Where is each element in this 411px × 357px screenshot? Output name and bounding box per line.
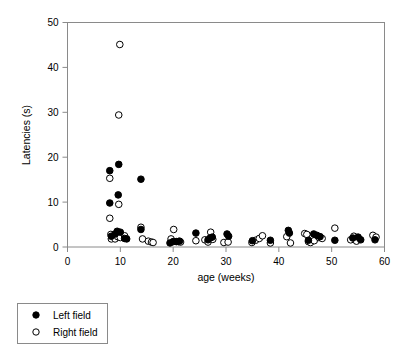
data-point-right-field — [106, 215, 113, 222]
y-axis-title: Latencies (s) — [20, 105, 32, 165]
data-point-left-field — [357, 237, 364, 244]
data-point-left-field — [249, 237, 256, 244]
data-point-left-field — [138, 226, 145, 233]
y-tick-label: 50 — [47, 17, 59, 28]
data-point-left-field — [193, 230, 200, 237]
data-point-left-field — [176, 238, 183, 245]
x-tick-label: 0 — [65, 256, 71, 267]
y-tick-label: 40 — [47, 62, 59, 73]
data-point-right-field — [170, 226, 177, 233]
data-point-left-field — [267, 237, 274, 244]
legend: Left field Right field — [18, 304, 108, 344]
data-point-left-field — [332, 237, 339, 244]
data-point-left-field — [209, 234, 216, 241]
data-point-left-field — [123, 236, 130, 243]
y-tick-label: 10 — [47, 197, 59, 208]
x-tick-label: 20 — [168, 256, 180, 267]
y-tick-label: 30 — [47, 107, 59, 118]
data-point-right-field — [193, 237, 200, 244]
data-point-left-field — [115, 192, 122, 199]
data-point-left-field — [117, 229, 124, 236]
data-point-right-field — [115, 112, 122, 119]
plot-frame — [68, 23, 385, 248]
plot-canvas: 0102030405060 01020304050 age (weeks) La… — [0, 0, 411, 357]
data-point-left-field — [372, 237, 379, 244]
data-point-right-field — [115, 201, 122, 208]
x-tick-label: 50 — [326, 256, 338, 267]
x-tick-label: 60 — [379, 256, 391, 267]
data-point-right-field — [117, 41, 124, 48]
y-tick-label: 20 — [47, 152, 59, 163]
data-point-right-field — [332, 225, 339, 232]
data-point-right-field — [259, 232, 266, 239]
scatter-plot-figure: 0102030405060 01020304050 age (weeks) La… — [0, 0, 411, 357]
y-axis-ticks — [63, 23, 68, 248]
x-axis-tick-labels: 0102030405060 — [65, 256, 391, 267]
legend-label-left-field: Left field — [53, 310, 91, 321]
data-point-left-field — [225, 233, 232, 240]
data-point-left-field — [305, 237, 312, 244]
y-axis-tick-labels: 01020304050 — [47, 17, 59, 253]
data-point-left-field — [106, 200, 113, 207]
data-point-right-field — [287, 240, 294, 247]
series-left-field-points — [106, 161, 378, 246]
legend-label-right-field: Right field — [53, 327, 97, 338]
legend-marker-right-field — [33, 329, 39, 335]
x-tick-label: 40 — [273, 256, 285, 267]
data-point-left-field — [317, 233, 324, 240]
y-tick-label: 0 — [53, 242, 59, 253]
data-point-right-field — [106, 175, 113, 182]
x-tick-label: 30 — [220, 256, 232, 267]
data-point-left-field — [106, 167, 113, 174]
data-point-left-field — [138, 176, 145, 183]
data-point-left-field — [108, 233, 115, 240]
series-right-field-points — [106, 41, 379, 246]
data-point-left-field — [286, 230, 293, 237]
data-point-left-field — [115, 161, 122, 168]
x-axis-title: age (weeks) — [197, 271, 254, 283]
x-tick-label: 10 — [115, 256, 127, 267]
x-axis-ticks — [68, 247, 385, 252]
legend-marker-left-field — [33, 312, 39, 318]
data-point-right-field — [150, 239, 157, 246]
